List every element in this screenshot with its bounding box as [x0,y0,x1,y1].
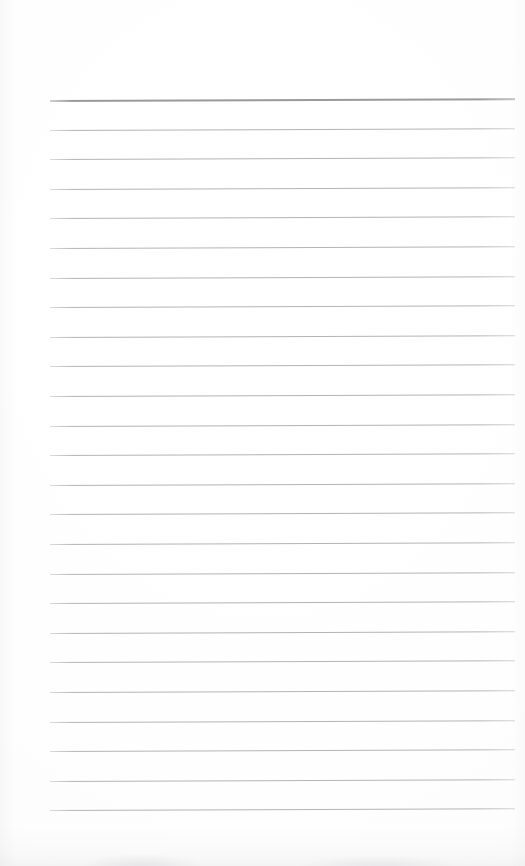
ruled-line [50,690,515,693]
ruled-line [50,335,515,338]
ruled-line [50,660,515,663]
ruled-line [50,601,515,604]
ruled-line [50,808,515,811]
header-rule [50,98,515,102]
ruled-line [50,542,515,545]
ruled-line [50,779,515,782]
ruled-line [50,483,515,486]
ruled-line [50,631,515,634]
ruled-line [50,216,515,219]
scanned-page [0,0,525,866]
ruled-line [50,187,515,190]
ruled-line [50,305,515,308]
ruled-line [50,749,515,752]
ruled-line [50,128,515,131]
ruled-line [50,364,515,367]
ruled-line [50,157,515,160]
ruled-line [50,424,515,427]
ruled-line [50,394,515,397]
ruled-line [50,246,515,249]
ruled-line-layer [0,0,525,866]
ruled-line [50,453,515,456]
ruled-line [50,572,515,575]
ruled-line [50,512,515,515]
ruled-line [50,276,515,279]
ruled-line [50,720,515,723]
